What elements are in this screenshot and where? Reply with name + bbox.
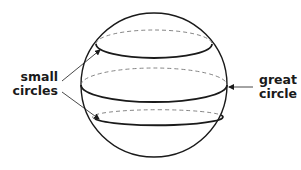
bottom-small-circle xyxy=(92,110,222,126)
small-circles-label: small circles xyxy=(12,70,58,98)
great-circle-label: great circle xyxy=(259,73,297,101)
great-circle-label-line1: great xyxy=(259,73,297,87)
great-circle-back xyxy=(81,68,227,85)
small-circles-label-line1: small xyxy=(12,70,58,84)
bottom-small-circle-back xyxy=(92,110,221,119)
great-circle xyxy=(81,68,227,102)
top-small-circle-front xyxy=(96,44,212,58)
top-small-circle xyxy=(96,30,212,58)
small-circles-label-line2: circles xyxy=(12,84,58,98)
great-circle-label-line2: circle xyxy=(259,87,297,101)
small-circles-pointer-bottom xyxy=(62,92,99,119)
great-circle-front xyxy=(81,85,227,102)
bottom-small-circle-front xyxy=(95,115,223,125)
top-small-circle-back xyxy=(96,30,212,44)
sphere-outline xyxy=(81,13,227,157)
